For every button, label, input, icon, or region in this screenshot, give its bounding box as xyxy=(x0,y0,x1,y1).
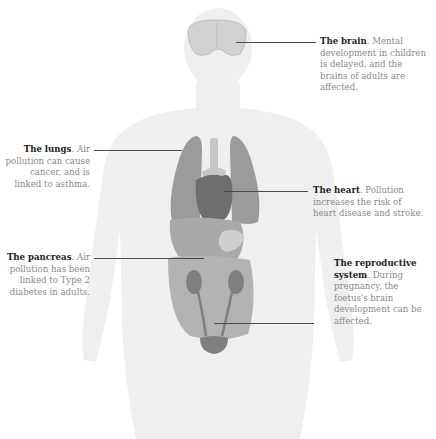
pancreas-callout: The pancreas. Air pollution has been lin… xyxy=(4,252,90,298)
heart-icon xyxy=(196,175,233,223)
reproductive-callout: The reproductive system. During pregnanc… xyxy=(334,258,434,328)
brain-heading: The brain xyxy=(320,36,367,46)
lungs-heading: The lungs xyxy=(24,144,72,154)
right-kidney-icon xyxy=(228,270,244,294)
brain-leader-line xyxy=(236,42,316,43)
heart-callout: The heart. Pollution increases the risk … xyxy=(313,185,425,220)
heart-heading: The heart xyxy=(313,185,360,195)
lungs-callout: The lungs. Air pollution can cause cance… xyxy=(4,144,90,190)
brain-callout: The brain. Mental development in childre… xyxy=(320,36,432,94)
reproductive-leader-line xyxy=(214,323,314,324)
lungs-leader-line xyxy=(94,150,182,151)
pancreas-heading: The pancreas xyxy=(7,252,72,262)
pancreas-leader-line xyxy=(94,258,204,259)
left-kidney-icon xyxy=(186,270,202,294)
heart-leader-line xyxy=(224,191,308,192)
